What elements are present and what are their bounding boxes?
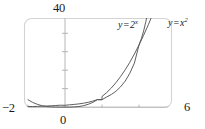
curve-label-quadratic-equals: =: [172, 17, 180, 28]
curve-label-exponential-equals: =: [122, 19, 130, 30]
graph-figure: 40 −2 6 0 y=2x y=x2: [0, 0, 205, 129]
curve-label-exponential-exponent: x: [135, 18, 138, 25]
curve-label-quadratic: y=x2: [168, 18, 188, 28]
curve-exponential: [28, 2, 150, 107]
curve-label-exponential: y=2x: [118, 20, 138, 30]
y-max-label: 40: [53, 2, 65, 15]
origin-label: 0: [60, 114, 66, 127]
x-max-label: 6: [184, 101, 190, 114]
x-min-label: −2: [2, 102, 15, 115]
curve-label-quadratic-exponent: 2: [185, 16, 188, 23]
viewport-frame: [25, 19, 172, 108]
